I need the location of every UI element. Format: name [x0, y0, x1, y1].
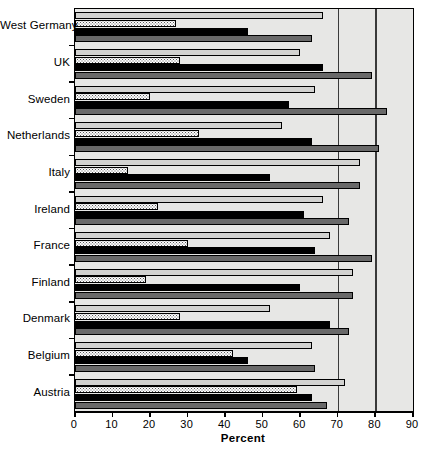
- bar-series-3-sweden: [75, 101, 289, 108]
- bar-series-4-italy: [75, 182, 360, 189]
- x-axis-title: Percent: [74, 432, 412, 444]
- bar-series-4-austria: [75, 402, 327, 409]
- bar-series-1-uk: [75, 49, 300, 56]
- bar-series-2-netherlands: [75, 130, 199, 137]
- bar-series-4-denmark: [75, 328, 349, 335]
- category-label-finland: Finland: [0, 276, 70, 288]
- bar-series-2-denmark: [75, 313, 180, 320]
- bar-series-4-ireland: [75, 218, 349, 225]
- x-tick-label-80: 80: [359, 418, 389, 430]
- x-tick-60: [299, 412, 301, 417]
- bar-series-2-west-germany: [75, 20, 176, 27]
- bar-series-2-uk: [75, 57, 180, 64]
- x-axis-line: [74, 411, 414, 413]
- bar-series-1-west-germany: [75, 12, 323, 19]
- bar-series-1-denmark: [75, 305, 270, 312]
- x-tick-label-50: 50: [247, 418, 277, 430]
- x-tick-70: [337, 412, 339, 417]
- bar-series-3-uk: [75, 64, 323, 71]
- bar-series-1-france: [75, 232, 330, 239]
- bar-group: [75, 339, 413, 376]
- y-tick: [69, 45, 74, 47]
- category-label-france: France: [0, 239, 70, 251]
- category-label-west-germany: West Germany: [0, 19, 70, 31]
- y-tick: [69, 228, 74, 230]
- y-tick: [69, 264, 74, 266]
- bar-series-3-finland: [75, 284, 300, 291]
- bar-group: [75, 82, 413, 119]
- bar-series-1-sweden: [75, 86, 315, 93]
- x-tick-20: [149, 412, 151, 417]
- y-tick: [69, 374, 74, 376]
- x-tick-label-40: 40: [209, 418, 239, 430]
- bar-groups: [75, 9, 413, 412]
- bar-series-1-italy: [75, 159, 360, 166]
- bar-series-4-netherlands: [75, 145, 379, 152]
- bar-series-4-uk: [75, 72, 372, 79]
- x-tick-label-30: 30: [172, 418, 202, 430]
- bar-series-1-belgium: [75, 342, 312, 349]
- category-label-uk: UK: [0, 56, 70, 68]
- bar-group: [75, 229, 413, 266]
- bar-series-1-ireland: [75, 196, 323, 203]
- y-tick: [69, 191, 74, 193]
- x-tick-90: [412, 412, 414, 417]
- bar-series-3-belgium: [75, 357, 248, 364]
- bar-group: [75, 302, 413, 339]
- bar-series-2-sweden: [75, 93, 150, 100]
- bar-series-1-austria: [75, 379, 345, 386]
- x-tick-50: [262, 412, 264, 417]
- x-tick-label-70: 70: [322, 418, 352, 430]
- bar-series-3-denmark: [75, 321, 330, 328]
- category-label-italy: Italy: [0, 166, 70, 178]
- bar-series-3-netherlands: [75, 138, 312, 145]
- bar-series-2-austria: [75, 386, 297, 393]
- y-tick: [69, 301, 74, 303]
- bar-series-3-austria: [75, 394, 312, 401]
- bar-group: [75, 192, 413, 229]
- bar-series-4-france: [75, 255, 372, 262]
- bar-series-4-belgium: [75, 365, 315, 372]
- bar-series-2-ireland: [75, 203, 158, 210]
- bar-chart: West GermanyUKSwedenNetherlandsItalyIrel…: [0, 0, 430, 453]
- x-tick-40: [224, 412, 226, 417]
- x-tick-label-0: 0: [59, 418, 89, 430]
- bar-series-3-italy: [75, 174, 270, 181]
- x-tick-0: [74, 412, 76, 417]
- category-label-sweden: Sweden: [0, 93, 70, 105]
- category-label-denmark: Denmark: [0, 312, 70, 324]
- x-tick-label-60: 60: [284, 418, 314, 430]
- bar-series-2-france: [75, 240, 188, 247]
- plot-area: [74, 8, 414, 413]
- y-tick: [69, 81, 74, 83]
- y-tick: [69, 338, 74, 340]
- bar-group: [75, 119, 413, 156]
- bar-group: [75, 9, 413, 46]
- x-tick-label-20: 20: [134, 418, 164, 430]
- bar-group: [75, 265, 413, 302]
- category-label-austria: Austria: [0, 386, 70, 398]
- x-tick-label-10: 10: [97, 418, 127, 430]
- category-label-ireland: Ireland: [0, 203, 70, 215]
- category-label-belgium: Belgium: [0, 349, 70, 361]
- x-tick-label-90: 90: [397, 418, 427, 430]
- bar-series-1-netherlands: [75, 122, 282, 129]
- bar-series-3-west-germany: [75, 28, 248, 35]
- bar-series-2-italy: [75, 167, 128, 174]
- x-tick-30: [187, 412, 189, 417]
- bar-group: [75, 375, 413, 412]
- x-tick-80: [374, 412, 376, 417]
- bar-series-4-sweden: [75, 108, 387, 115]
- bar-series-1-finland: [75, 269, 353, 276]
- bar-group: [75, 46, 413, 83]
- category-label-netherlands: Netherlands: [0, 129, 70, 141]
- y-tick: [69, 155, 74, 157]
- bar-group: [75, 156, 413, 193]
- bar-series-4-west-germany: [75, 35, 312, 42]
- bar-series-4-finland: [75, 292, 353, 299]
- bar-series-2-finland: [75, 276, 146, 283]
- bar-series-2-belgium: [75, 350, 233, 357]
- x-tick-10: [112, 412, 114, 417]
- bar-series-3-france: [75, 247, 315, 254]
- y-tick: [69, 118, 74, 120]
